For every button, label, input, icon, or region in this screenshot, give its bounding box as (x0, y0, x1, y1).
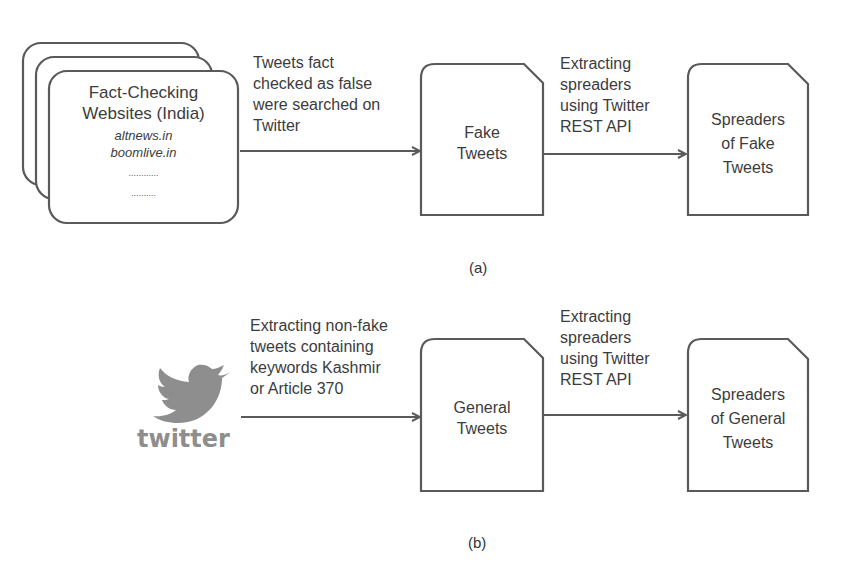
edge-a1-line3: were searched on (253, 94, 380, 115)
twitter-wordmark: twitter (137, 425, 230, 453)
edge-b1-line2: tweets containing (250, 336, 388, 357)
fake-tweets-node: Fake Tweets (421, 122, 543, 164)
edge-a2-line3: using Twitter (560, 95, 650, 116)
edge-a2-label: Extracting spreaders using Twitter REST … (560, 53, 650, 137)
spreaders-general-line1: Spreaders (688, 383, 808, 407)
edge-a2-line1: Extracting (560, 53, 650, 74)
spreaders-fake-line3: Tweets (688, 156, 808, 180)
edge-b1-line1: Extracting non-fake (250, 315, 388, 336)
edge-b2-line3: using Twitter (560, 348, 650, 369)
caption-a: (a) (469, 259, 487, 276)
general-tweets-line2: Tweets (421, 418, 543, 439)
edge-a2-line4: REST API (560, 116, 650, 137)
ellipsis-2: .......... (49, 187, 238, 199)
spreaders-fake-line1: Spreaders (688, 108, 808, 132)
caption-b: (b) (468, 534, 486, 551)
spreaders-fake-node: Spreaders of Fake Tweets (688, 108, 808, 180)
site-altnews: altnews.in (49, 127, 238, 144)
edge-b2-label: Extracting spreaders using Twitter REST … (560, 306, 650, 390)
general-tweets-line1: General (421, 397, 543, 418)
edge-a1-line2: checked as false (253, 73, 380, 94)
edge-b2-line1: Extracting (560, 306, 650, 327)
edge-b1-line4: or Article 370 (250, 378, 388, 399)
ellipsis-1: ............ (49, 167, 238, 179)
edge-b2-line2: spreaders (560, 327, 650, 348)
source-title-line1: Fact-Checking (49, 82, 238, 103)
spreaders-fake-line2: of Fake (688, 132, 808, 156)
fake-tweets-line2: Tweets (421, 143, 543, 164)
edge-a1-label: Tweets fact checked as false were search… (253, 52, 380, 136)
edge-a2-line2: spreaders (560, 74, 650, 95)
edge-b2-line4: REST API (560, 369, 650, 390)
edge-b1-line3: keywords Kashmir (250, 357, 388, 378)
edge-b1-label: Extracting non-fake tweets containing ke… (250, 315, 388, 399)
edge-a1-line1: Tweets fact (253, 52, 380, 73)
fake-tweets-line1: Fake (421, 122, 543, 143)
fact-checking-websites-label: Fact-Checking Websites (India) altnews.i… (49, 82, 238, 199)
spreaders-general-node: Spreaders of General Tweets (688, 383, 808, 455)
twitter-bird-icon (153, 365, 230, 423)
site-boomlive: boomlive.in (49, 144, 238, 161)
edge-a1-line4: Twitter (253, 115, 380, 136)
source-title-line2: Websites (India) (49, 103, 238, 124)
spreaders-general-line2: of General (688, 407, 808, 431)
spreaders-general-line3: Tweets (688, 431, 808, 455)
general-tweets-node: General Tweets (421, 397, 543, 439)
